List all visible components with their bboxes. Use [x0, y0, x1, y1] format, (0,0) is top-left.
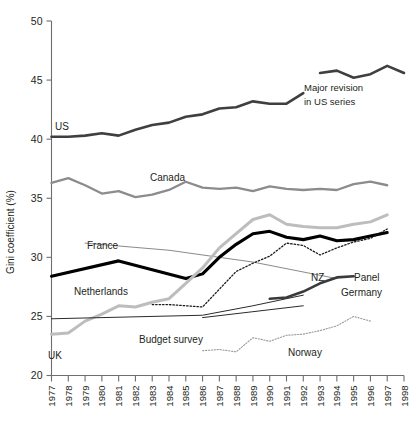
x-tick-label: 1979 — [80, 386, 91, 407]
series-label-us: US — [55, 121, 69, 132]
x-tick-label: 1988 — [231, 386, 242, 407]
x-tick-label: 1978 — [63, 386, 74, 407]
y-tick-label: 30 — [31, 251, 43, 263]
y-axis-title: Gini coefficient (%) — [5, 190, 16, 274]
annotation-line-2: in US series — [304, 96, 355, 107]
series-label-nz: NZ — [311, 272, 324, 283]
series-label-uk: UK — [48, 350, 62, 361]
x-tick-label: 1986 — [197, 386, 208, 407]
x-tick-label: 1981 — [113, 386, 124, 407]
x-tick-label: 1989 — [248, 386, 259, 407]
chart-canvas: 20253035404550 1977197819791980198119821… — [0, 0, 416, 430]
x-tick-label: 1982 — [130, 386, 141, 407]
y-tick-label: 35 — [31, 192, 43, 204]
series-label-canada: Canada — [150, 172, 185, 183]
x-tick-label: 1998 — [399, 386, 410, 407]
y-tick-label: 20 — [31, 369, 43, 381]
y-tick-label: 40 — [31, 133, 43, 145]
chart-background — [0, 0, 416, 430]
series-label-france: France — [87, 240, 119, 251]
x-tick-label: 1977 — [46, 386, 57, 407]
x-tick-label: 1983 — [147, 386, 158, 407]
x-tick-label: 1996 — [365, 386, 376, 407]
gini-coefficient-line-chart: 20253035404550 1977197819791980198119821… — [0, 0, 416, 430]
x-tick-label: 1985 — [180, 386, 191, 407]
x-tick-label: 1987 — [214, 386, 225, 407]
y-tick-label: 50 — [31, 15, 43, 27]
series-label-germany: Germany — [341, 287, 382, 298]
x-tick-label: 1980 — [96, 386, 107, 407]
series-label-norway: Norway — [288, 347, 322, 358]
x-tick-label: 1992 — [298, 386, 309, 407]
x-tick-label: 1990 — [264, 386, 275, 407]
x-tick-label: 1993 — [315, 386, 326, 407]
x-tick-label: 1995 — [348, 386, 359, 407]
series-label-panel: Panel — [354, 272, 380, 283]
series-label-budget-survey: Budget survey — [139, 334, 203, 345]
series-label-netherlands: Netherlands — [74, 286, 128, 297]
y-tick-label: 25 — [31, 310, 43, 322]
y-tick-label: 45 — [31, 74, 43, 86]
annotation-line-1: Major revision — [304, 82, 363, 93]
x-tick-label: 1984 — [164, 386, 175, 407]
x-tick-label: 1997 — [382, 386, 393, 407]
x-tick-label: 1994 — [331, 386, 342, 407]
x-tick-label: 1991 — [281, 386, 292, 407]
